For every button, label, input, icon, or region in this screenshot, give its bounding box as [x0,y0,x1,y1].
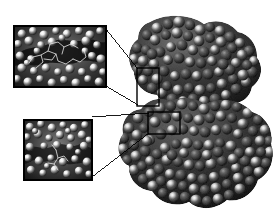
protein-surface-figure [0,0,275,216]
inset-panel-lower [23,120,92,180]
inset-panel-upper [13,26,107,88]
inset-upper-content [13,27,107,88]
inset-lower-content [23,120,92,179]
figure-canvas [0,0,275,216]
